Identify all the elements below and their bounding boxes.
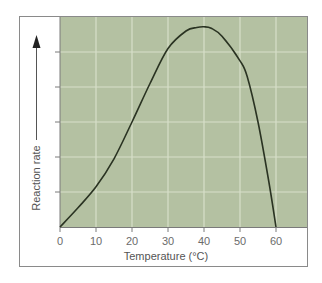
x-axis-label: Temperature (°C)	[124, 250, 208, 262]
y-axis-label: Reaction rate	[30, 145, 42, 210]
x-tick-label: 20	[126, 235, 138, 247]
x-tick-label: 10	[90, 235, 102, 247]
x-tick-label: 30	[162, 235, 174, 247]
x-tick-label: 50	[234, 235, 246, 247]
x-tick-label: 40	[198, 235, 210, 247]
chart: 0102030405060 Temperature (°C) Reaction …	[0, 0, 322, 283]
x-tick-label: 60	[270, 235, 282, 247]
x-tick-label: 0	[57, 235, 63, 247]
